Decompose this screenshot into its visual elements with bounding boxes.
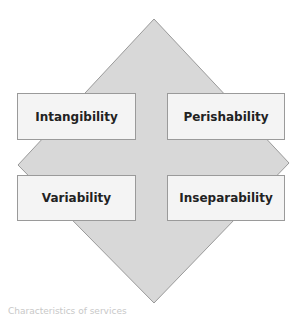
box-label: Perishability bbox=[183, 110, 268, 124]
box-intangibility: Intangibility bbox=[17, 93, 136, 140]
diamond-background bbox=[0, 0, 301, 315]
box-perishability: Perishability bbox=[167, 93, 285, 140]
box-label: Variability bbox=[42, 191, 111, 205]
box-label: Intangibility bbox=[35, 110, 118, 124]
box-inseparability: Inseparability bbox=[167, 175, 285, 221]
figure-caption: Characteristics of services bbox=[8, 306, 127, 315]
box-variability: Variability bbox=[17, 175, 136, 221]
box-label: Inseparability bbox=[179, 191, 272, 205]
